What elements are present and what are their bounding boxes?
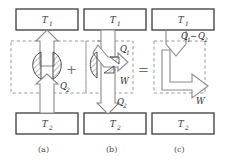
panel-c-caption: (c) — [174, 145, 185, 154]
panel-a-cold-reservoir-sub: 2 — [48, 124, 53, 131]
panel-c-work-label: W — [196, 96, 206, 106]
panel-a-caption: (a) — [38, 145, 49, 154]
panel-c-net-heat-label2-sub: 2 — [203, 36, 208, 43]
figure-canvas: T 1 T 2 Q 2 (a) + T 1 T 2 — [0, 0, 227, 165]
operator-plus: + — [66, 62, 77, 77]
panel-c-net-heat-minus: − — [190, 31, 197, 41]
panel-b-hot-reservoir-sub: 1 — [117, 20, 121, 27]
panel-c-cold-reservoir-sub: 2 — [184, 124, 189, 131]
panel-b-cold-reservoir-sub: 2 — [116, 124, 121, 131]
panel-a-flow-label-sub: 2 — [65, 86, 70, 93]
panel-c-hot-reservoir-sub: 1 — [185, 20, 189, 27]
panel-b-heat-in-label-sub: 1 — [126, 49, 130, 56]
panel-b-work-label: W — [120, 76, 130, 86]
operator-equals: = — [138, 62, 149, 77]
panel-a-hot-reservoir-sub: 1 — [49, 20, 53, 27]
thermodynamics-figure: T 1 T 2 Q 2 (a) + T 1 T 2 — [0, 0, 227, 165]
panel-b-heat-out-label-sub: 2 — [122, 102, 127, 109]
panel-b-caption: (b) — [106, 145, 117, 154]
